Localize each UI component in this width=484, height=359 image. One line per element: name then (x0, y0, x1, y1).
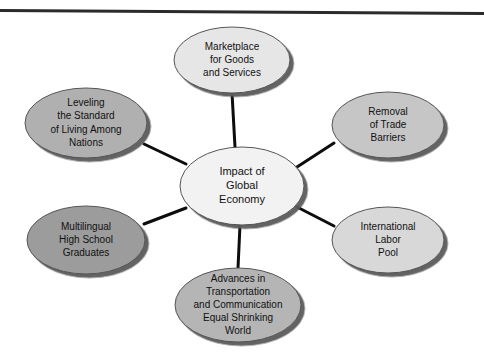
node-advances-in-transportation[interactable]: Advances inTransportationand Communicati… (175, 268, 301, 342)
node-international-labor-pool-line-2: Pool (378, 247, 398, 258)
center-node-line-0: Impact of (219, 165, 265, 177)
connector-center-to-removal (297, 143, 334, 167)
node-marketplace-line-0: Marketplace (205, 40, 260, 51)
connector-center-to-marketplace (232, 93, 235, 147)
node-leveling-the-standard-line-0: Leveling (67, 97, 104, 108)
diagram-canvas: Marketplacefor Goodsand ServicesRemovalo… (0, 0, 484, 359)
node-removal-of-trade-barriers-label: Removalof TradeBarriers (368, 105, 407, 142)
center-node-line-1: Global (226, 179, 258, 191)
node-removal-of-trade-barriers-line-2: Barriers (370, 132, 405, 143)
node-advances-in-transportation-line-3: Equal Shrinking (203, 312, 273, 323)
node-marketplace-line-1: for Goods (210, 54, 254, 65)
node-leveling-the-standard-line-3: Nations (69, 136, 103, 147)
impact-of-global-economy-diagram: Marketplacefor Goodsand ServicesRemovalo… (0, 0, 484, 359)
center-node[interactable]: Impact ofGlobalEconomy (180, 147, 304, 225)
center-node-line-2: Economy (219, 193, 265, 205)
node-advances-in-transportation-line-1: Transportation (206, 285, 270, 296)
node-international-labor-pool[interactable]: InternationalLaborPool (332, 207, 444, 273)
connector-center-to-multilingual (144, 208, 186, 224)
node-leveling-the-standard[interactable]: Levelingthe Standardof Living AmongNatio… (25, 88, 147, 158)
node-multilingual-high-school-graduates-line-1: High School (59, 234, 113, 245)
node-removal-of-trade-barriers-line-1: of Trade (370, 119, 407, 130)
node-multilingual-high-school-graduates-line-0: Multilingual (61, 220, 111, 231)
connector-center-to-labor-pool (297, 207, 334, 226)
node-advances-in-transportation-line-2: and Communication (194, 299, 283, 310)
node-removal-of-trade-barriers-line-0: Removal (368, 105, 407, 116)
node-multilingual-high-school-graduates-label: MultilingualHigh SchoolGraduates (59, 220, 113, 257)
connector-center-to-leveling (144, 144, 186, 164)
node-marketplace-line-2: and Services (203, 67, 261, 78)
node-multilingual-high-school-graduates[interactable]: MultilingualHigh SchoolGraduates (27, 206, 145, 274)
node-international-labor-pool-line-1: Labor (375, 234, 401, 245)
top-horizontal-rule (0, 11, 484, 14)
node-advances-in-transportation-line-0: Advances in (211, 272, 265, 283)
node-advances-in-transportation-line-4: World (225, 325, 251, 336)
node-international-labor-pool-line-0: International (360, 220, 415, 231)
node-multilingual-high-school-graduates-line-2: Graduates (63, 247, 110, 258)
node-leveling-the-standard-line-2: of Living Among (50, 123, 121, 134)
connector-center-to-advances (238, 225, 240, 268)
diagram-nodes: Marketplacefor Goodsand ServicesRemovalo… (25, 27, 444, 342)
node-marketplace[interactable]: Marketplacefor Goodsand Services (174, 27, 290, 93)
top-horizontal-rule (0, 11, 484, 14)
node-leveling-the-standard-line-1: the Standard (57, 110, 114, 121)
node-marketplace-label: Marketplacefor Goodsand Services (203, 40, 261, 77)
node-removal-of-trade-barriers[interactable]: Removalof TradeBarriers (332, 92, 444, 158)
